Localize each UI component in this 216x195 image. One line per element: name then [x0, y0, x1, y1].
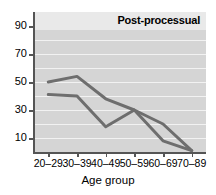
y-axis-tick-label: 30: [0, 104, 27, 115]
y-axis-tick-label: 90: [0, 20, 27, 31]
x-axis-tick-label: 70–89: [172, 157, 212, 169]
y-axis-tick-label: 70: [0, 48, 27, 59]
y-axis-tick: [29, 26, 33, 28]
x-axis-title: Age group: [0, 174, 216, 186]
y-axis-tick: [29, 82, 33, 84]
y-axis-tick-label: 50: [0, 76, 27, 87]
y-axis-tick: [29, 110, 33, 112]
series-layer: [34, 12, 206, 152]
y-axis-line: [33, 12, 35, 153]
y-axis-tick-label: 10: [0, 132, 27, 143]
y-axis-tick: [29, 138, 33, 140]
x-axis-line: [33, 152, 206, 154]
chart-container: Post-processual 1030507090 20–2930–3940–…: [0, 0, 216, 195]
plot-area: Post-processual: [34, 12, 206, 152]
y-axis-tick: [29, 54, 33, 56]
series-line-series-upper: [48, 76, 191, 150]
